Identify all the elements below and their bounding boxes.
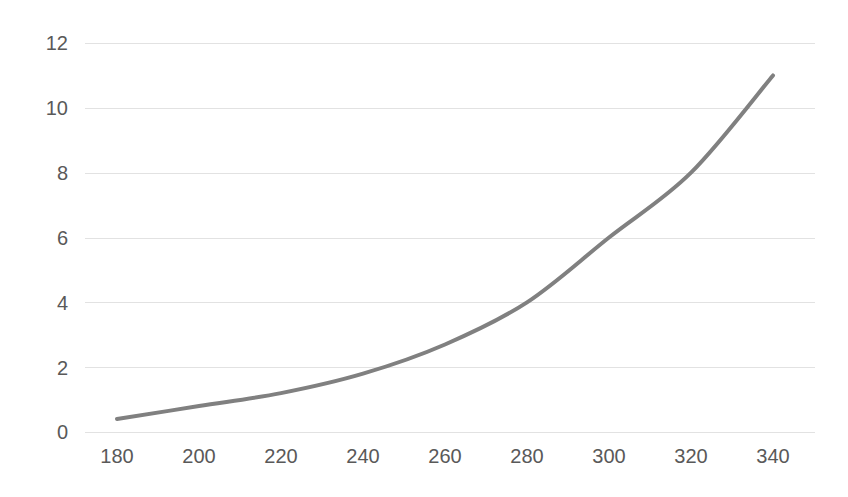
line-chart: 12 10 8 6 4 2 0 180 200 220 240 260 280 … — [0, 0, 848, 497]
series-layer — [0, 0, 848, 497]
series-line-1 — [117, 75, 773, 419]
